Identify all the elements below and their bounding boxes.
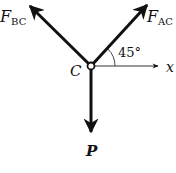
force-label-p: P [85, 142, 98, 160]
x-axis-label: x [166, 59, 174, 75]
force-label-fac: FAC [146, 7, 173, 27]
free-body-diagram: x 45° FBC FAC P C [0, 0, 176, 173]
angle-arc [108, 49, 115, 66]
node-label: C [70, 62, 82, 80]
node-c [88, 63, 95, 70]
force-arrow-fbc [30, 6, 91, 66]
angle-label: 45° [118, 45, 141, 60]
force-label-fbc: FBC [0, 7, 27, 27]
